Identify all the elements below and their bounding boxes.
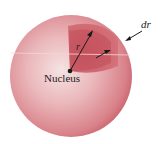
radius-label: r	[76, 41, 80, 52]
dr-arrowhead	[125, 36, 131, 41]
nucleus-label: Nucleus	[44, 72, 80, 84]
dr-label: dr	[141, 18, 151, 30]
